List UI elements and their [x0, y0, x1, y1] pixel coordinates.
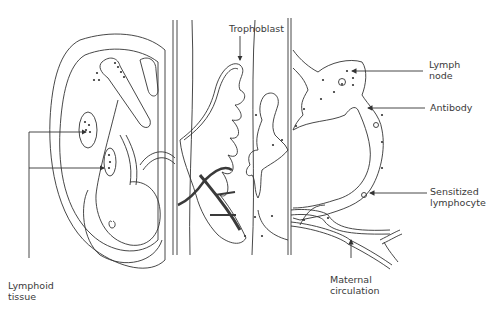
lymph-node: [293, 50, 383, 220]
label-sensitized-lymphocyte: Sensitized lymphocyte: [430, 186, 486, 208]
label-antibody: Antibody: [430, 102, 472, 113]
placental-villi: [178, 64, 246, 244]
lymphoid-tissue-leader: [29, 132, 104, 258]
diagram-drawing: [0, 0, 492, 309]
diagram-canvas: Trophoblast Lymph node Antibody Sensitiz…: [0, 0, 492, 309]
label-lymph-node: Lymph node: [429, 59, 460, 81]
label-maternal-circulation: Maternal circulation: [330, 274, 379, 296]
label-trophoblast: Trophoblast: [229, 23, 284, 34]
label-lymphoid-tissue: Lymphoid tissue: [8, 280, 54, 302]
fetus-illustration: [50, 34, 175, 268]
